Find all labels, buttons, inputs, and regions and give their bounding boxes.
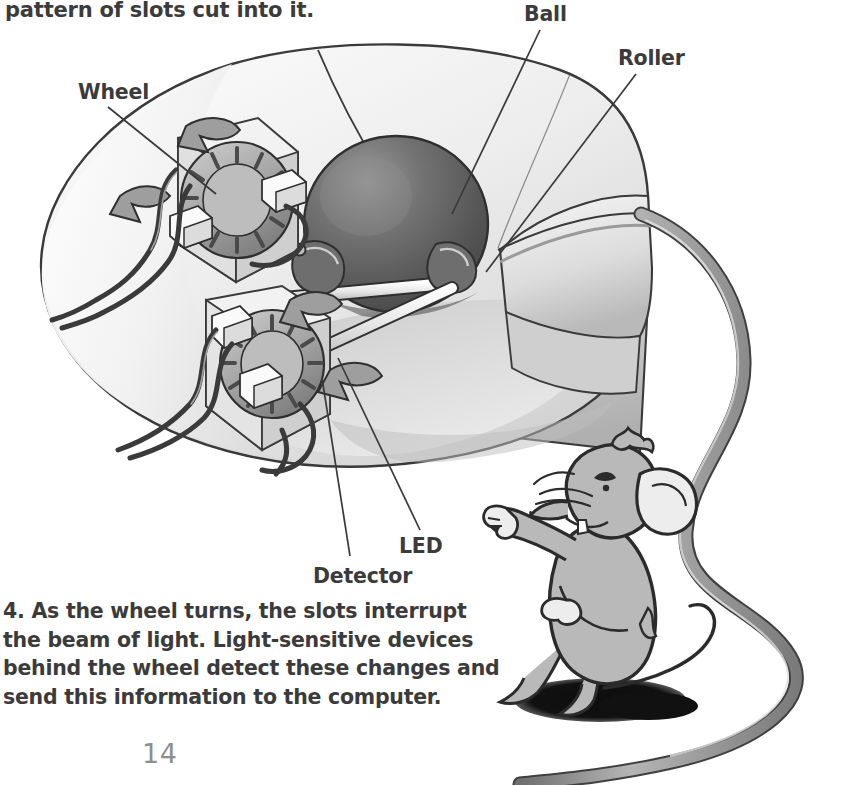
callout-label-roller: Roller	[618, 46, 685, 70]
step-4-paragraph: 4. As the wheel turns, the slots interru…	[3, 597, 503, 711]
callout-label-led: LED	[399, 534, 442, 558]
page-number: 14	[142, 738, 177, 769]
callout-label-ball: Ball	[524, 2, 567, 26]
callout-label-wheel: Wheel	[78, 80, 149, 104]
callout-label-detector: Detector	[313, 564, 412, 588]
cartoon-mouse-mascot	[484, 428, 715, 722]
continued-sentence: pattern of slots cut into it.	[5, 0, 314, 23]
page-canvas: pattern of slots cut into it. Wheel Ball…	[0, 0, 843, 785]
